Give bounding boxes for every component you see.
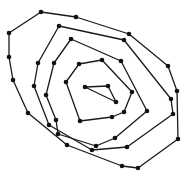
ring-3-node [119,59,124,64]
ring-4-node [32,84,37,89]
inner-triangle-node [106,84,111,89]
outer-ring-node [136,166,141,171]
ring-4-node [47,123,52,128]
inner-triangle-node [83,85,88,90]
ring-4-node [36,61,41,66]
ring-3-node [145,109,150,114]
ring-4-node [171,112,176,117]
outer-ring-node [7,31,12,36]
outer-ring-node [39,10,44,15]
outer-ring-node [166,64,171,69]
ring-4-node [90,148,95,153]
outer-ring-node [11,78,16,83]
outer-ring-node [65,143,70,148]
ring-4-node [169,97,174,102]
outer-ring-node [26,111,31,116]
spiral-diagram [0,0,183,180]
outer-ring-node [175,89,180,94]
outer-ring-node [74,15,79,20]
outer-ring-node [176,137,181,142]
ring-3-node [69,37,74,42]
ring-3-node [54,118,59,123]
ring-4-node [122,38,127,43]
ring-2-node [64,80,69,85]
ring-2-node [77,62,82,67]
ring-3-node [56,132,61,137]
ring-3-node [94,144,99,149]
ring-2-node [130,90,135,95]
ring-3-node [113,136,118,141]
ring-3-node [52,61,57,66]
ring-4 [34,26,173,150]
inner-triangle-node [114,100,119,105]
outer-ring-node [120,164,125,169]
ring-4-node [57,24,62,29]
ring-2-node [110,115,115,120]
rings-layer [9,12,178,168]
inner-triangle [85,86,116,102]
ring-3-node [44,93,49,98]
outer-ring-node [127,32,132,37]
outer-ring-node [7,55,12,60]
ring-2-node [78,119,83,124]
ring-2-node [100,58,105,63]
ring-2-node [122,110,127,115]
ring-4-node [125,145,130,150]
